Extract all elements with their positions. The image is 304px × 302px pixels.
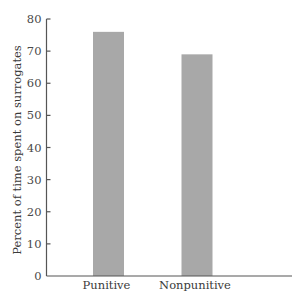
y-axis-title: Percent of time spent on surrogates bbox=[10, 45, 24, 255]
y-tick-label: 40 bbox=[27, 141, 42, 155]
x-category-label: Punitive bbox=[83, 278, 131, 292]
y-tick-label: 0 bbox=[34, 269, 41, 283]
bars bbox=[93, 32, 213, 276]
x-axis-labels: PunitiveNonpunitive bbox=[83, 278, 232, 292]
x-category-label: Nonpunitive bbox=[159, 278, 231, 292]
bar-chart: 01020304050607080 PunitiveNonpunitive Pe… bbox=[0, 0, 304, 302]
y-tick-label: 20 bbox=[27, 205, 42, 219]
bar-punitive bbox=[93, 32, 124, 276]
y-tick-label: 70 bbox=[27, 44, 42, 58]
y-tick-label: 10 bbox=[27, 237, 42, 251]
y-tick-label: 60 bbox=[27, 76, 42, 90]
y-tick-label: 30 bbox=[27, 173, 42, 187]
y-tick-label: 50 bbox=[27, 108, 42, 122]
y-tick-label: 80 bbox=[27, 12, 42, 26]
bar-nonpunitive bbox=[182, 54, 213, 276]
